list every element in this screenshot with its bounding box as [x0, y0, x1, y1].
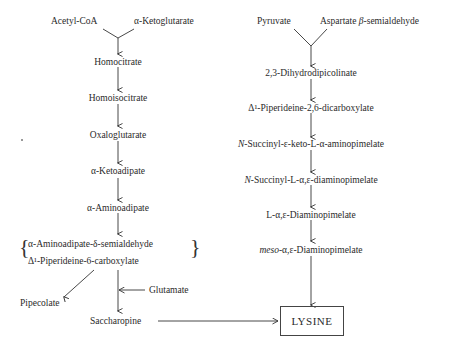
succinyl-keto-aminopimelate-label: N-Succinyl-ε-keto-L-α-aminopimelate	[238, 139, 384, 150]
aspartate-semialdehyde-label: Aspartate β-semialdehyde	[320, 16, 419, 27]
succinyl-diaminopimelate-label: N-Succinyl-L-α,ε-diaminopimelate	[244, 175, 377, 186]
right-brace: }	[190, 236, 201, 258]
acetyl-coa-label: Acetyl-CoA	[51, 16, 97, 27]
oxaloglutarate-label: Oxaloglutarate	[90, 130, 146, 141]
dihydrodipicolinate-label: 2,3-Dihydrodipicolinate	[265, 68, 357, 79]
piperideine-6-carboxylate-label: Δ¹-Piperideine-6-carboxylate	[28, 256, 139, 267]
alpha-aminoadipate-label: α-Aminoadipate	[87, 203, 149, 214]
lysine-label: LYSINE	[291, 315, 332, 327]
meso-diaminopimelate-label: meso-α,ε-Diaminopimelate	[259, 245, 362, 256]
piperideine-dicarboxylate-label: Δ¹-Piperideine-2,6-dicarboxylate	[248, 103, 373, 114]
stray-mark	[21, 139, 23, 141]
alpha-ketoadipate-label: α-Ketoadipate	[91, 166, 145, 177]
l-diaminopimelate-label: L-α,ε-Diaminopimelate	[266, 210, 355, 221]
saccharopine-label: Saccharopine	[90, 316, 141, 327]
alpha-ketoglutarate-label: α-Ketoglutarate	[134, 16, 194, 27]
homocitrate-label: Homocitrate	[94, 57, 141, 68]
homoisocitrate-label: Homoisocitrate	[89, 93, 148, 104]
pipecolate-label: Pipecolate	[20, 298, 60, 309]
lysine-product-box: LYSINE	[280, 306, 344, 336]
pathway-arrows	[0, 0, 456, 356]
pyruvate-label: Pyruvate	[257, 16, 291, 27]
aminoadipate-semialdehyde-label: α-Aminoadipate-δ-semialdehyde	[28, 239, 153, 250]
glutamate-label: Glutamate	[149, 285, 189, 296]
